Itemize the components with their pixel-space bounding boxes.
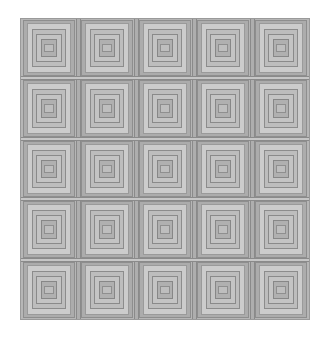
tile-band-core-highlight [218, 104, 228, 112]
pattern-tile [20, 18, 78, 78]
pattern-tile [78, 139, 136, 199]
tile-band-core-highlight [160, 286, 170, 294]
tile-band-core-highlight [160, 104, 170, 112]
tile-band-core-highlight [102, 44, 112, 52]
tile-band-core-highlight [276, 286, 286, 294]
pattern-grid [20, 18, 310, 320]
tile-band-core-highlight [276, 104, 286, 112]
pattern-tile [136, 199, 194, 259]
tile-band-core-highlight [276, 44, 286, 52]
tile-band-core-highlight [102, 286, 112, 294]
pattern-tile [20, 78, 78, 138]
tile-band-core-highlight [160, 165, 170, 173]
pattern-tile [136, 78, 194, 138]
pattern-tile [78, 78, 136, 138]
tile-band-core-highlight [218, 44, 228, 52]
tile-band-core-highlight [102, 104, 112, 112]
pattern-tile [194, 139, 252, 199]
tile-band-core-highlight [160, 225, 170, 233]
horizontal-seam-3 [20, 197, 310, 201]
tile-band-core-highlight [276, 165, 286, 173]
pattern-tile [252, 260, 310, 320]
pattern-tile [252, 78, 310, 138]
pattern-tile [136, 260, 194, 320]
tile-band-core-highlight [218, 165, 228, 173]
pattern-tile [78, 18, 136, 78]
pattern-tile [194, 260, 252, 320]
tile-band-core-highlight [218, 286, 228, 294]
vertical-seam-1 [76, 18, 81, 320]
pattern-tile [20, 260, 78, 320]
pattern-canvas [0, 0, 329, 338]
tile-band-core-highlight [102, 165, 112, 173]
pattern-tile [252, 18, 310, 78]
tile-band-core-highlight [44, 165, 54, 173]
pattern-tile [194, 199, 252, 259]
horizontal-seam-1 [20, 76, 310, 80]
pattern-tile [194, 18, 252, 78]
vertical-seam-3 [192, 18, 197, 320]
pattern-tile [20, 199, 78, 259]
tile-band-core-highlight [44, 225, 54, 233]
tile-band-core-highlight [276, 225, 286, 233]
pattern-tile [252, 139, 310, 199]
vertical-seam-2 [134, 18, 139, 320]
tile-band-core-highlight [44, 286, 54, 294]
pattern-tile [136, 18, 194, 78]
pattern-tile [194, 78, 252, 138]
vertical-seam-4 [250, 18, 255, 320]
pattern-tile [136, 139, 194, 199]
tile-band-core-highlight [160, 44, 170, 52]
pattern-tile [252, 199, 310, 259]
horizontal-seam-2 [20, 137, 310, 141]
horizontal-seam-4 [20, 258, 310, 262]
tile-band-core-highlight [218, 225, 228, 233]
tile-band-core-highlight [44, 104, 54, 112]
tile-band-core-highlight [44, 44, 54, 52]
pattern-tile [20, 139, 78, 199]
tile-band-core-highlight [102, 225, 112, 233]
pattern-tile [78, 199, 136, 259]
pattern-tile [78, 260, 136, 320]
